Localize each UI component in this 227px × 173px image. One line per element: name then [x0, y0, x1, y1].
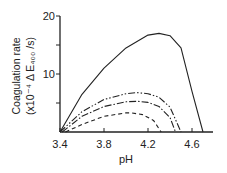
x-tick-label: 3.8: [96, 138, 111, 150]
y-tick-label: 20: [43, 10, 55, 22]
chart: 3.43.84.24.61020pHCoagulation rate(x10⁻⁴…: [0, 0, 227, 173]
x-tick-label: 4.2: [140, 138, 155, 150]
series-dashed: [66, 113, 162, 132]
x-axis-label: pH: [119, 153, 133, 165]
y-tick-label: 10: [43, 68, 55, 80]
x-tick-label: 3.4: [52, 138, 67, 150]
x-tick-label: 4.6: [184, 138, 199, 150]
series-solid: [60, 33, 203, 132]
y-axis-label-units: (x10⁻⁴ Δ E₄₀₀ /s): [24, 37, 36, 115]
y-axis-label: Coagulation rate: [10, 37, 22, 114]
series-dash-dot-dot: [60, 93, 181, 132]
